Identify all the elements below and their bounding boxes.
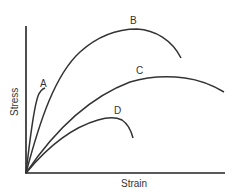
curve-c-label: C [136,65,143,76]
curve-b-label: B [130,15,137,26]
x-axis-label: Strain [121,178,147,189]
y-axis-label: Stress [9,88,20,116]
curve-a-label: A [40,78,47,89]
curve-b [26,29,181,173]
stress-strain-chart: A B C D Strain Stress [0,0,240,195]
curve-d-label: D [114,105,121,116]
curve-c [26,77,224,173]
curve-d [26,118,133,173]
